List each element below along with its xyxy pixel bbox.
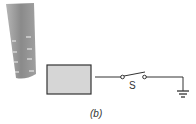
conductor-box	[47, 65, 91, 94]
switch-lever	[124, 72, 145, 76]
circuit-diagram	[0, 0, 196, 124]
switch-contact-left	[121, 75, 125, 79]
wire	[95, 72, 183, 91]
switch-label: S	[129, 80, 136, 91]
ground-icon	[177, 91, 189, 97]
figure-caption: (b)	[90, 108, 102, 119]
switch-contact-right	[143, 75, 147, 79]
charged-rod	[6, 3, 36, 79]
